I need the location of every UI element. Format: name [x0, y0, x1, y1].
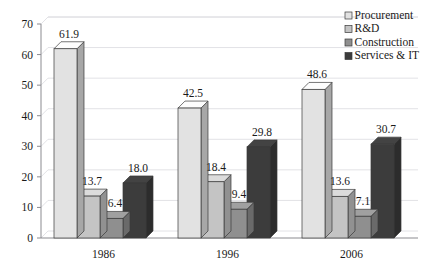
legend-item-procurement[interactable]: Procurement — [345, 9, 414, 21]
bar-side-face — [348, 189, 355, 238]
bar-value-label: 29.8 — [252, 126, 272, 138]
legend-item-services-it[interactable]: Services & IT — [345, 49, 419, 61]
x-category-label: 2006 — [340, 248, 363, 260]
bar-side-face — [100, 189, 107, 238]
gridline-depth — [41, 48, 48, 55]
y-tick-label: 50 — [22, 79, 34, 91]
bar-value-label: 42.5 — [183, 87, 203, 99]
gridline-depth — [41, 231, 48, 238]
legend-swatch — [345, 26, 352, 33]
legend-label: Services & IT — [355, 49, 420, 61]
legend-swatch — [345, 12, 352, 19]
y-tick-label: 70 — [22, 18, 34, 30]
bar-side-face — [146, 176, 153, 238]
legend-item-r-d[interactable]: R&D — [345, 22, 379, 34]
y-tick-label: 30 — [22, 140, 34, 152]
bars-layer — [54, 42, 401, 238]
bar-side-face — [325, 82, 332, 238]
category-labels: 198619962006 — [92, 248, 363, 260]
legend-label: R&D — [355, 22, 380, 34]
legend-label: Construction — [355, 36, 415, 48]
x-category-label: 1996 — [216, 248, 239, 260]
x-category-label: 1986 — [92, 248, 115, 260]
bar-value-label: 61.9 — [59, 28, 79, 40]
gridline-depth — [41, 17, 48, 24]
y-tick-label: 0 — [27, 232, 33, 244]
bar-side-face — [224, 175, 231, 238]
chart-canvas: 01020304050607018.06.413.761.929.89.418.… — [0, 0, 433, 275]
gridline-depth — [41, 78, 48, 85]
bar-value-label: 18.0 — [128, 162, 148, 174]
bar-value-label: 9.4 — [232, 188, 247, 200]
legend-item-construction[interactable]: Construction — [345, 36, 414, 48]
legend: ProcurementR&DConstructionServices & IT — [345, 9, 419, 62]
y-tick-label: 60 — [22, 49, 34, 61]
bar-value-label: 30.7 — [376, 123, 396, 135]
y-tick-label: 20 — [22, 171, 34, 183]
bar-chart: 01020304050607018.06.413.761.929.89.418.… — [0, 0, 433, 275]
legend-swatch — [345, 39, 352, 46]
bar-procurement-1996 — [178, 101, 208, 238]
bar-front-face — [54, 49, 77, 238]
bar-side-face — [270, 140, 277, 238]
bar-value-label: 13.7 — [82, 175, 102, 187]
bar-procurement-1986 — [54, 42, 84, 238]
legend-label: Procurement — [355, 9, 415, 21]
bar-value-label: 48.6 — [307, 68, 327, 80]
bar-side-face — [394, 137, 401, 238]
bar-value-label: 18.4 — [206, 161, 226, 173]
bar-value-label: 6.4 — [108, 197, 123, 209]
y-tick-label: 10 — [22, 201, 34, 213]
y-tick-label: 40 — [22, 110, 34, 122]
bar-value-label: 7.1 — [356, 195, 371, 207]
bar-side-face — [77, 42, 84, 238]
gridline-depth — [41, 109, 48, 116]
gridline-depth — [41, 170, 48, 177]
bar-front-face — [302, 89, 325, 238]
bar-value-label: 13.6 — [330, 175, 350, 187]
bar-front-face — [178, 108, 201, 238]
legend-swatch — [345, 53, 352, 60]
gridline-depth — [41, 200, 48, 207]
gridline-depth — [41, 139, 48, 146]
bar-procurement-2006 — [302, 82, 332, 238]
